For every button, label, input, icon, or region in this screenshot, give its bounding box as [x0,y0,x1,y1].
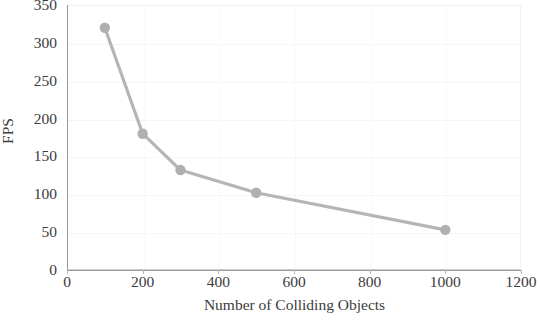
x-axis-tick-label: 400 [207,274,230,290]
y-axis-tick-labels: 050100150200250300350 [0,0,62,323]
x-axis-tick-mark [521,270,522,274]
x-axis-tick-mark [218,270,219,274]
y-axis-tick-label: 50 [42,224,58,240]
x-axis-tick-mark [67,270,68,274]
y-axis-tick-label: 150 [34,149,57,165]
y-axis-tick-label: 0 [49,262,57,278]
data-point-marker [137,129,147,139]
x-axis-tick-label: 0 [63,274,71,290]
y-axis-tick-label: 350 [34,0,57,13]
data-point-marker [251,188,261,198]
x-axis-tick-label: 1000 [430,274,461,290]
x-axis-tick-label: 1200 [506,274,537,290]
chart-container: 050100150200250300350 020040060080010001… [0,0,540,323]
series-line-fps [105,28,446,230]
y-axis-tick-label: 200 [34,111,57,127]
y-axis-tick-label: 100 [34,187,57,203]
y-axis-title: FPS [0,101,17,161]
x-axis-title: Number of Colliding Objects [67,296,522,314]
y-axis-tick-label: 300 [34,35,57,51]
data-point-marker [100,23,110,33]
data-point-marker [440,225,450,235]
x-axis-tick-mark [294,270,295,274]
x-axis-tick-mark [143,270,144,274]
x-axis-tick-mark [445,270,446,274]
x-axis-tick-label: 600 [282,274,305,290]
data-point-marker [175,165,185,175]
x-axis-tick-mark [370,270,371,274]
y-axis-tick-label: 250 [34,73,57,89]
x-axis-tick-label: 200 [131,274,154,290]
x-axis-tick-label: 800 [358,274,381,290]
